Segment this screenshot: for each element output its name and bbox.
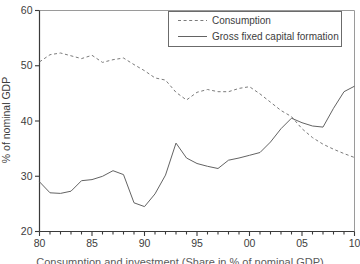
x-tick-label: 85 [86,237,98,249]
x-tick-label: 90 [139,237,151,249]
x-tick-label: 05 [296,237,308,249]
series-line-gfcf [40,86,355,206]
caption-clipped: Consumption and investment (Share in % o… [0,257,360,264]
series-line-consumption [40,53,355,158]
series-lines [40,53,355,207]
x-tick-label: 00 [244,237,256,249]
y-axis-title: % of nominal GDP [0,77,12,163]
y-tick-label: 30 [21,170,33,182]
legend: Consumption Gross fixed capital formatio… [169,12,342,47]
y-tick-label: 20 [21,225,33,237]
y-tick-label: 60 [21,4,33,16]
chart-figure: 605040302080859095000510 % of nominal GD… [0,0,360,264]
legend-label-gfcf: Gross fixed capital formation [212,31,339,42]
legend-label-consumption: Consumption [212,15,271,26]
x-tick-label: 80 [34,237,46,249]
x-tick-label: 10 [349,237,360,249]
chart-canvas: 605040302080859095000510 % of nominal GD… [0,0,360,264]
y-tick-label: 50 [21,59,33,71]
y-tick-label: 40 [21,115,33,127]
x-tick-label: 95 [191,237,203,249]
